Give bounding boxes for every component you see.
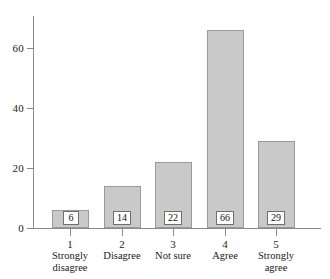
x-category-label-5: Strongly agree bbox=[234, 250, 318, 273]
y-tick-label-0: 0 bbox=[0, 223, 24, 234]
bar-value-5: 29 bbox=[267, 211, 285, 225]
y-tick-mark-60 bbox=[27, 48, 34, 49]
bar-value-3: 22 bbox=[164, 211, 182, 225]
bar-value-1: 6 bbox=[63, 211, 79, 225]
y-tick-label-20: 20 bbox=[0, 163, 24, 174]
y-tick-label-60: 60 bbox=[0, 43, 24, 54]
x-tick-mark-5 bbox=[276, 229, 277, 236]
x-category-5: 5 Strongly agree bbox=[234, 238, 318, 273]
y-tick-mark-0 bbox=[27, 228, 34, 229]
bar-chart: 60 40 20 0 6 14 22 66 29 1 Strongly disa… bbox=[0, 0, 330, 279]
bar-4 bbox=[207, 30, 244, 228]
x-axis-line bbox=[33, 228, 321, 229]
x-tick-mark-4 bbox=[225, 229, 226, 236]
y-tick-label-40: 40 bbox=[0, 103, 24, 114]
x-tick-mark-3 bbox=[173, 229, 174, 236]
x-category-number-5: 5 bbox=[234, 238, 318, 250]
bar-value-4: 66 bbox=[216, 211, 234, 225]
x-tick-mark-2 bbox=[122, 229, 123, 236]
bar-value-2: 14 bbox=[113, 211, 131, 225]
y-tick-mark-40 bbox=[27, 108, 34, 109]
x-tick-mark-1 bbox=[70, 229, 71, 236]
y-tick-mark-20 bbox=[27, 168, 34, 169]
